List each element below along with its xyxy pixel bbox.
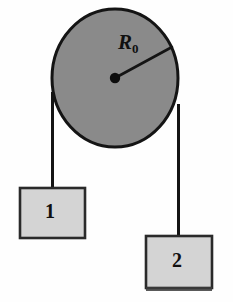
scan-artifact-bar (146, 287, 212, 291)
block-2-label: 2 (172, 249, 182, 272)
pulley-hub-dot (110, 73, 120, 83)
pulley-radius-symbol: R (118, 30, 132, 54)
pulley-radius-label: R0 (118, 30, 139, 57)
figure-canvas (0, 0, 233, 302)
pulley-radius-subscript: 0 (132, 41, 139, 56)
pulley-diagram-figure: R0 1 2 (0, 0, 233, 302)
block-1-label: 1 (45, 200, 55, 223)
